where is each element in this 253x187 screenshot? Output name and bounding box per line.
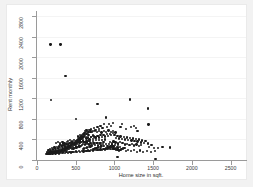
data-point xyxy=(124,138,126,140)
data-point xyxy=(94,129,96,131)
data-point xyxy=(74,143,76,145)
data-point xyxy=(140,141,142,143)
data-point xyxy=(111,142,113,144)
data-point xyxy=(61,144,63,146)
data-point xyxy=(104,148,106,150)
data-point xyxy=(53,146,55,148)
data-point xyxy=(97,144,99,146)
data-point xyxy=(119,126,121,128)
data-point xyxy=(60,150,62,152)
data-point xyxy=(110,131,112,133)
data-point xyxy=(133,149,135,151)
data-point xyxy=(87,136,89,138)
data-point xyxy=(61,141,63,143)
data-point xyxy=(48,151,50,153)
data-point xyxy=(63,148,65,150)
data-point xyxy=(80,137,82,139)
data-point xyxy=(59,152,61,154)
y-tick-label: 2800 xyxy=(18,17,24,29)
data-point xyxy=(59,143,61,145)
data-point xyxy=(150,151,152,153)
data-point xyxy=(146,150,148,152)
data-point xyxy=(121,138,123,140)
data-point xyxy=(95,129,97,131)
data-point xyxy=(92,138,94,140)
data-point xyxy=(47,152,49,154)
data-point xyxy=(73,143,75,145)
data-point xyxy=(90,136,92,138)
data-point xyxy=(76,139,78,141)
data-point xyxy=(67,145,69,147)
data-point xyxy=(85,131,87,133)
data-point xyxy=(112,147,114,149)
y-tick-label: 0 xyxy=(18,165,24,168)
data-point xyxy=(95,137,97,139)
y-axis-line xyxy=(36,11,37,160)
data-point xyxy=(136,151,138,153)
data-point xyxy=(82,141,84,143)
data-point xyxy=(59,147,61,149)
data-point xyxy=(98,130,100,132)
data-point xyxy=(72,145,74,147)
data-point xyxy=(154,150,156,152)
data-point xyxy=(56,150,58,152)
data-point xyxy=(138,145,140,147)
data-point xyxy=(47,150,49,152)
data-point xyxy=(61,152,63,154)
y-tick xyxy=(32,16,36,17)
data-point xyxy=(60,145,62,147)
data-point xyxy=(66,149,68,151)
data-point xyxy=(107,135,109,137)
data-point xyxy=(88,138,90,140)
data-point xyxy=(147,123,149,125)
data-point xyxy=(93,142,95,144)
data-point xyxy=(112,130,114,132)
data-point xyxy=(112,140,114,142)
data-point xyxy=(83,141,85,143)
data-point xyxy=(56,150,58,152)
data-point xyxy=(69,147,71,149)
data-point xyxy=(79,151,81,153)
data-point xyxy=(95,139,97,141)
data-point xyxy=(63,150,65,152)
data-point xyxy=(58,149,60,151)
data-point xyxy=(99,134,101,136)
y-tick-label: 2000 xyxy=(18,58,24,70)
data-point xyxy=(92,130,94,132)
data-point xyxy=(85,136,87,138)
data-point xyxy=(50,152,52,154)
data-point xyxy=(86,141,88,143)
data-point xyxy=(116,146,118,148)
data-point xyxy=(86,146,88,148)
data-point xyxy=(93,149,95,151)
data-point xyxy=(54,148,56,150)
data-point xyxy=(123,147,125,149)
data-point xyxy=(147,142,149,144)
data-point xyxy=(105,147,107,149)
data-point xyxy=(102,145,104,147)
data-point xyxy=(85,133,87,135)
data-point xyxy=(68,151,70,153)
data-point xyxy=(51,152,53,154)
data-point xyxy=(98,128,100,130)
y-tick xyxy=(32,119,36,120)
data-point xyxy=(71,148,73,150)
data-point xyxy=(63,142,65,144)
data-point xyxy=(107,148,109,150)
x-axis-title: Home size in sqft. xyxy=(119,172,163,178)
data-point xyxy=(89,129,91,131)
data-point xyxy=(119,141,121,143)
data-point xyxy=(127,139,129,141)
data-point xyxy=(66,146,68,148)
data-point xyxy=(64,145,66,147)
data-point xyxy=(74,141,76,143)
data-point xyxy=(73,142,75,144)
data-point xyxy=(53,151,55,153)
data-point xyxy=(130,139,132,141)
data-point xyxy=(88,140,90,142)
data-point xyxy=(98,136,100,138)
data-point xyxy=(82,148,84,150)
data-point xyxy=(80,145,82,147)
data-point xyxy=(57,150,59,152)
data-point xyxy=(81,150,83,152)
